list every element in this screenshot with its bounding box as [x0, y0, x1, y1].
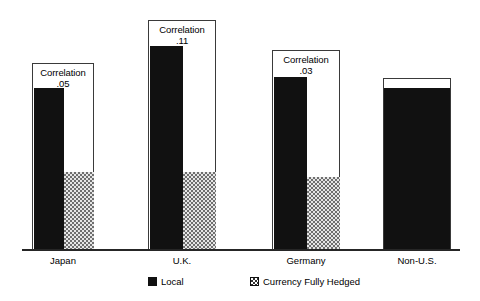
- correlation-annotation-germany: Correlation .03: [273, 54, 339, 76]
- correlation-value-germany: .03: [273, 65, 339, 76]
- correlation-annotation-uk: Correlation .11: [149, 24, 215, 46]
- legend-item-currency-fully-hedged[interactable]: Currency Fully Hedged: [250, 276, 360, 287]
- bar-japan-hedged[interactable]: [64, 172, 94, 249]
- plot-area: Correlation .05 Correlation .11 Correlat…: [0, 0, 480, 301]
- stippled-swatch-icon: [250, 277, 259, 286]
- legend-item-local[interactable]: Local: [148, 276, 184, 287]
- bar-group-uk[interactable]: Correlation .11: [148, 20, 216, 250]
- solid-black-swatch-icon: [148, 277, 157, 286]
- bar-uk-local[interactable]: [150, 46, 183, 249]
- correlation-bar-chart: Correlation .05 Correlation .11 Correlat…: [0, 0, 480, 301]
- bar-germany-local[interactable]: [274, 77, 307, 249]
- category-axis-line: [22, 249, 460, 251]
- bar-group-non-us[interactable]: [383, 78, 451, 250]
- category-label-germany: Germany: [272, 255, 340, 266]
- correlation-annotation-japan: Correlation .05: [33, 67, 93, 89]
- category-label-non-us: Non-U.S.: [383, 255, 451, 266]
- legend-label-local: Local: [161, 276, 184, 287]
- category-label-uk: U.K.: [148, 255, 216, 266]
- bar-group-japan[interactable]: Correlation .05: [32, 63, 94, 250]
- category-label-japan: Japan: [32, 255, 94, 266]
- correlation-label-japan: Correlation: [33, 67, 93, 78]
- correlation-label-uk: Correlation: [149, 24, 215, 35]
- bar-non-us-local[interactable]: [384, 88, 450, 249]
- bar-germany-hedged[interactable]: [307, 177, 340, 249]
- correlation-value-uk: .11: [149, 35, 215, 46]
- correlation-label-germany: Correlation: [273, 54, 339, 65]
- bar-uk-hedged[interactable]: [183, 172, 216, 249]
- legend-label-currency-fully-hedged: Currency Fully Hedged: [263, 276, 360, 287]
- chart-legend: Local Currency Fully Hedged: [0, 276, 480, 294]
- bar-japan-local[interactable]: [34, 88, 64, 249]
- bar-group-germany[interactable]: Correlation .03: [272, 50, 340, 250]
